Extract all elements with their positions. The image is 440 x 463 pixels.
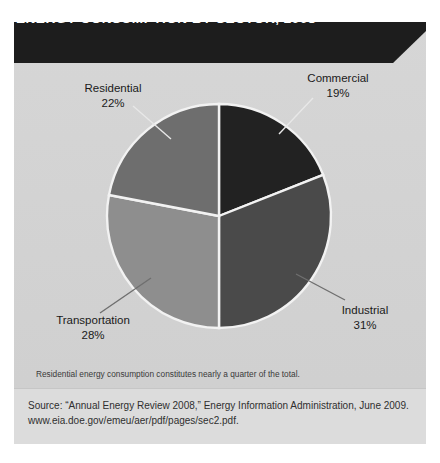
pie-label-transportation-percent: 28% bbox=[36, 328, 150, 343]
pie-label-industrial-percent: 31% bbox=[322, 318, 408, 333]
pie-label-residential-percent: 22% bbox=[64, 96, 162, 111]
chart-caption: Residential energy consumption constitut… bbox=[36, 369, 396, 380]
pie-label-commercial-name: Commercial bbox=[307, 72, 368, 84]
source-line-1: Source: “Annual Energy Review 2008,” Ene… bbox=[28, 399, 428, 414]
pie-label-industrial-name: Industrial bbox=[342, 304, 389, 316]
pie-label-residential-name: Residential bbox=[85, 82, 142, 94]
pie-chart-svg bbox=[104, 101, 334, 331]
pie-label-industrial: Industrial 31% bbox=[322, 303, 408, 332]
pie-slice-residential[interactable] bbox=[109, 104, 219, 216]
figure-container: ENERGY CONSUMPTION BY SECTOR, 2008 Resid… bbox=[0, 0, 440, 463]
title-bar bbox=[14, 22, 426, 63]
pie-chart bbox=[104, 101, 334, 331]
pie-label-residential: Residential 22% bbox=[64, 81, 162, 110]
pie-label-transportation-name: Transportation bbox=[56, 314, 130, 326]
pie-slice-transportation[interactable] bbox=[107, 195, 219, 328]
source-note: Source: “Annual Energy Review 2008,” Ene… bbox=[28, 399, 428, 428]
pie-label-transportation: Transportation 28% bbox=[36, 313, 150, 342]
pie-label-commercial: Commercial 19% bbox=[286, 71, 390, 100]
pie-label-commercial-percent: 19% bbox=[286, 86, 390, 101]
page-title: ENERGY CONSUMPTION BY SECTOR, 2008 bbox=[16, 11, 316, 26]
source-url[interactable]: www.eia.doe.gov/emeu/aer/pdf/pages/sec2.… bbox=[28, 414, 428, 429]
footer-divider bbox=[14, 388, 426, 389]
